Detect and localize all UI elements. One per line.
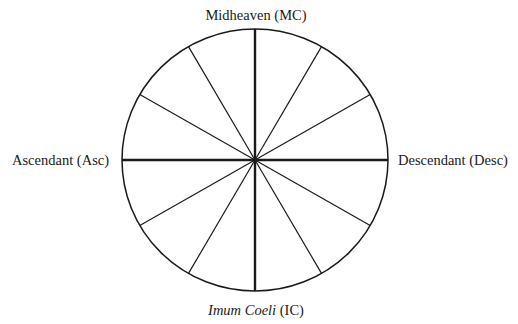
ascendant-label: Ascendant (Asc) xyxy=(12,153,109,168)
angle-axes xyxy=(122,29,388,291)
imum-coeli-italic: Imum Coeli xyxy=(208,302,276,318)
imum-coeli-label: Imum Coeli (IC) xyxy=(0,303,518,318)
midheaven-label: Midheaven (MC) xyxy=(0,8,518,23)
imum-coeli-abbrev: (IC) xyxy=(276,302,304,318)
descendant-label: Descendant (Desc) xyxy=(398,153,508,168)
